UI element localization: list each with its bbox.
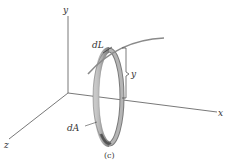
z-axis-label: z (3, 140, 9, 150)
x-axis (68, 93, 217, 112)
height-label: y (130, 69, 137, 79)
ring-back-edge (109, 50, 122, 144)
dl-label: dL (92, 40, 104, 50)
x-axis-label: x (218, 108, 223, 118)
figure-caption: (c) (104, 151, 115, 160)
z-axis (9, 93, 68, 139)
da-label: dA (67, 123, 80, 133)
surface-of-revolution-diagram: y x z dL y dA (c) (0, 0, 225, 161)
da-leader (85, 122, 97, 126)
y-axis-label: y (62, 5, 69, 15)
coordinate-axes (9, 16, 217, 139)
